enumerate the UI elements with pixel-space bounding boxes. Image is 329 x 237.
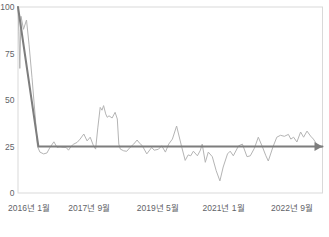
y-axis-tick-label: 100 — [0, 2, 14, 12]
chart-canvas: 02550751002016년 1월2017년 9월2019년 5월2021년 … — [0, 0, 329, 237]
y-axis-tick-label: 0 — [10, 188, 15, 198]
trend-arrowhead-icon — [315, 142, 323, 151]
y-axis-tick-label: 50 — [5, 95, 15, 105]
x-axis-tick-label: 2016년 1월 — [8, 203, 50, 213]
trend-line-chart: 02550751002016년 1월2017년 9월2019년 5월2021년 … — [0, 0, 329, 237]
x-axis-tick-label: 2019년 5월 — [137, 203, 179, 213]
x-axis-tick-label: 2021년 1월 — [203, 203, 245, 213]
y-axis-tick-label: 25 — [5, 142, 15, 152]
interest-over-time-line — [18, 7, 322, 181]
x-axis-tick-label: 2022년 9월 — [271, 203, 313, 213]
y-axis-tick-label: 75 — [5, 49, 15, 59]
trend-overlay-line — [18, 7, 323, 147]
plot-frame — [18, 7, 323, 193]
x-axis-tick-label: 2017년 9월 — [68, 203, 110, 213]
